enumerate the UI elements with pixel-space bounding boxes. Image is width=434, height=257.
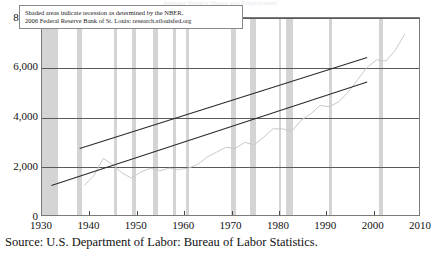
source-caption: Source: U.S. Department of Labor: Bureau…: [5, 234, 318, 250]
y-axis-tick-label: 6,000: [0, 61, 38, 72]
x-axis-tick-label: 2000: [351, 219, 395, 232]
trend-line: [51, 82, 367, 185]
x-axis-tick-label: 1940: [66, 219, 110, 232]
y-axis-tick-label: 2,000: [0, 161, 38, 172]
plot-area: [41, 17, 420, 216]
x-axis-labels: 193019401950196019701980199020002010: [0, 219, 434, 235]
data-series-line: [84, 34, 404, 185]
x-axis-tick-label: 1970: [209, 219, 253, 232]
x-axis-tick-label: 1950: [114, 219, 158, 232]
x-axis-tick-label: 1980: [256, 219, 300, 232]
x-axis-tick-label: 1930: [19, 219, 63, 232]
x-axis-tick-label: 1960: [161, 219, 205, 232]
trend-line: [80, 57, 367, 148]
series-layer: [42, 18, 419, 215]
chart-figure: Average Weekly Hours and Employment 02,0…: [0, 0, 434, 257]
y-axis-tick-label: 4,000: [0, 111, 38, 122]
annotation-line-2: 2006 Federal Reserve Bank of St. Louis: …: [25, 17, 237, 25]
annotation-line-1: Shaded areas indicate recession as deter…: [25, 9, 237, 17]
x-axis-tick-label: 2010: [398, 219, 434, 232]
x-axis-tick-label: 1990: [303, 219, 347, 232]
recession-annotation-box: Shaded areas indicate recession as deter…: [19, 5, 243, 29]
